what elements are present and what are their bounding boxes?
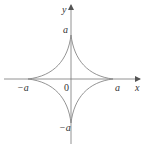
origin-label: 0	[64, 82, 69, 93]
x-axis-label: x	[134, 82, 140, 93]
tick-x-positive: a	[115, 82, 120, 93]
tick-y-positive: a	[63, 24, 68, 35]
tick-y-negative: −a	[59, 122, 71, 133]
y-axis-label: y	[61, 4, 67, 15]
astroid-diagram: y x 0 a −a a −a	[0, 0, 142, 145]
tick-x-negative: −a	[17, 82, 29, 93]
